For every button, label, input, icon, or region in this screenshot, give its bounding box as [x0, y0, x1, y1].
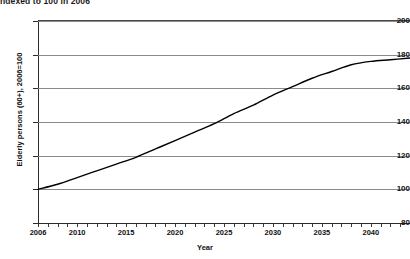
- y-axis-title: Elderly persons (60+), 2006=100: [15, 35, 24, 185]
- series-layer: [0, 0, 410, 259]
- chart-container: ndexed to 100 in 2006 801001201401601802…: [0, 0, 410, 259]
- series-line-elderly-index: [38, 58, 410, 189]
- x-axis-title: Year: [0, 243, 410, 252]
